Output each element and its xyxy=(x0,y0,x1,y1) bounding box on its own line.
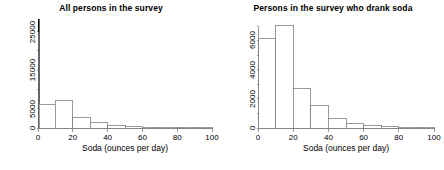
x-tick-label: 60 xyxy=(359,133,368,142)
panel-title-all-persons: All persons in the survey xyxy=(0,3,222,13)
chart-svg xyxy=(257,18,436,135)
x-tick-label: 100 xyxy=(427,133,440,142)
plot-area-drank-soda: 0204060801000200040006000 xyxy=(258,20,434,128)
x-tick-label: 80 xyxy=(173,133,182,142)
histogram-bar xyxy=(293,89,311,128)
histogram-bar xyxy=(258,39,276,128)
y-tick-label: 15000 xyxy=(28,59,38,81)
histogram-bar xyxy=(311,105,329,128)
x-tick-label: 20 xyxy=(289,133,298,142)
x-tick-label: 20 xyxy=(68,133,77,142)
y-tick-label: 25000 xyxy=(28,20,38,42)
x-tick-label: 0 xyxy=(36,133,40,142)
histogram-bar xyxy=(90,122,107,128)
plot-area-all-persons: 020406080100050001500025000 xyxy=(38,18,212,128)
x-tick-label: 40 xyxy=(103,133,112,142)
bars-group xyxy=(258,25,434,128)
y-tick-label: 0 xyxy=(28,126,38,130)
histogram-bar xyxy=(39,104,55,128)
histogram-bar xyxy=(328,119,346,128)
y-tick-label: 5000 xyxy=(28,100,38,118)
histogram-bar xyxy=(346,123,364,128)
x-axis xyxy=(258,128,434,132)
x-tick-label: 60 xyxy=(138,133,147,142)
y-tick-label: 6000 xyxy=(248,32,258,50)
y-tick-label: 4000 xyxy=(248,61,258,79)
x-tick-label: 40 xyxy=(324,133,333,142)
x-axis-label-drank-soda: Soda (ounces per day) xyxy=(258,143,434,153)
y-tick-label: 2000 xyxy=(248,90,258,108)
x-tick-label: 100 xyxy=(205,133,218,142)
histogram-bar xyxy=(73,118,90,128)
y-tick-label: 0 xyxy=(248,126,258,130)
panel-title-drank-soda: Persons in the survey who drank soda xyxy=(222,3,444,13)
x-tick-label: 0 xyxy=(256,133,260,142)
histogram-bar xyxy=(276,25,294,128)
histogram-bar xyxy=(55,101,72,128)
chart-svg xyxy=(37,16,214,135)
panel-all-persons: All persons in the survey 02040608010005… xyxy=(0,0,222,170)
two-panel-histogram-figure: All persons in the survey 02040608010005… xyxy=(0,0,444,170)
bars-group xyxy=(38,19,212,128)
x-axis-label-all-persons: Soda (ounces per day) xyxy=(38,143,212,153)
panel-drank-soda: Persons in the survey who drank soda 020… xyxy=(222,0,444,170)
x-tick-label: 80 xyxy=(394,133,403,142)
